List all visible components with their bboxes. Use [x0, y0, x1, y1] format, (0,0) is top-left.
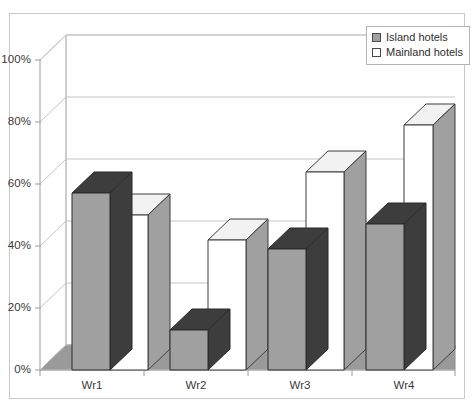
legend-item-mainland: Mainland hotels — [372, 45, 463, 60]
bar-wr4-island — [366, 203, 426, 370]
y-tick-label-40: 40% — [0, 239, 31, 251]
left-wall — [40, 35, 66, 370]
bar-side — [433, 104, 455, 370]
bar-side — [148, 194, 170, 370]
bar-side — [306, 228, 328, 370]
bar-face — [170, 330, 208, 370]
bar-side — [404, 203, 426, 370]
chart-legend: Island hotels Mainland hotels — [366, 26, 470, 65]
bar-wr1-island — [72, 172, 132, 370]
y-tick-label-0: 0% — [0, 363, 31, 375]
legend-label-mainland: Mainland hotels — [386, 46, 463, 59]
legend-swatch-mainland-icon — [372, 48, 381, 57]
chart-container: 100% 80% 60% 40% 20% 0% Wr1 Wr2 Wr3 Wr4 … — [0, 0, 476, 415]
x-tick-label-wr2: Wr2 — [156, 379, 236, 391]
legend-item-island: Island hotels — [372, 30, 463, 45]
bar-wr3-island — [268, 228, 328, 370]
legend-label-island: Island hotels — [386, 31, 448, 44]
legend-swatch-island-icon — [372, 33, 381, 42]
bar-side — [246, 219, 268, 370]
y-tick-label-100: 100% — [0, 53, 31, 65]
bar-face — [366, 224, 404, 370]
x-tick-marks — [40, 370, 455, 376]
y-tick-label-80: 80% — [0, 115, 31, 127]
bar-face — [72, 193, 110, 370]
bar-side — [110, 172, 132, 370]
x-tick-label-wr1: Wr1 — [52, 379, 132, 391]
bar-side — [344, 151, 366, 370]
x-tick-label-wr3: Wr3 — [260, 379, 340, 391]
bar-face — [268, 249, 306, 370]
x-tick-label-wr4: Wr4 — [364, 379, 444, 391]
y-tick-label-60: 60% — [0, 177, 31, 189]
y-tick-label-20: 20% — [0, 301, 31, 313]
